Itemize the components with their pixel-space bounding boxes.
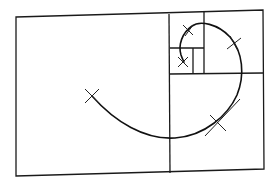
x-mark-3-icon xyxy=(227,36,241,51)
divider-main-vertical xyxy=(169,14,170,173)
x-mark-1-icon xyxy=(85,89,99,103)
divider-right-horizontal xyxy=(170,73,263,74)
golden-spiral-diagram xyxy=(0,0,280,184)
x-mark-2-icon xyxy=(205,99,240,136)
